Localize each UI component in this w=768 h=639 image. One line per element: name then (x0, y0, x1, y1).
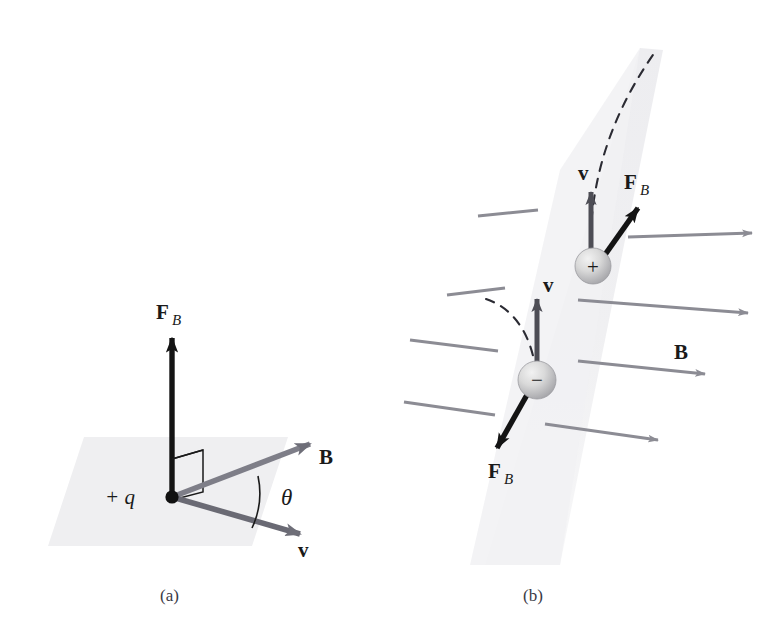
panel-b-positive-charge-sign: + (587, 255, 599, 279)
panel-b-negative-force-label: F (488, 459, 501, 483)
panel-b: + v F B − v F B B (b) (404, 48, 752, 605)
panel-a-force-label: F (156, 300, 169, 324)
panel-b-positive-force-label: F (624, 170, 637, 194)
field-line-segment (447, 288, 505, 295)
field-line-segment (628, 233, 752, 237)
panel-a-plane (48, 437, 288, 546)
field-line-segment (410, 340, 498, 351)
panel-b-negative-force-subscript: B (504, 471, 513, 487)
panel-b-field-label: B (674, 340, 688, 364)
panel-b-caption: (b) (523, 586, 543, 605)
panel-a-force-subscript: B (172, 312, 181, 328)
panel-a-caption: (a) (160, 586, 179, 605)
panel-b-negative-charge-sign: − (531, 368, 543, 392)
figure-canvas: F B B v + q θ (a) (0, 0, 768, 639)
panel-b-plane-left-wedge (470, 48, 640, 565)
physics-figure: F B B v + q θ (a) (0, 0, 768, 639)
panel-a: F B B v + q θ (a) (48, 300, 333, 605)
panel-a-field-label: B (319, 445, 333, 469)
panel-a-charge-label: + q (105, 485, 135, 509)
field-line-segment (404, 402, 495, 415)
panel-b-negative-velocity-label: v (543, 273, 554, 297)
panel-b-positive-force-subscript: B (640, 182, 649, 198)
field-line-segment (478, 210, 538, 216)
panel-a-angle-label: θ (281, 485, 292, 510)
panel-a-charge-dot (165, 490, 178, 503)
panel-a-velocity-label: v (298, 538, 309, 562)
panel-b-positive-velocity-label: v (578, 161, 589, 185)
